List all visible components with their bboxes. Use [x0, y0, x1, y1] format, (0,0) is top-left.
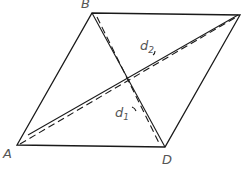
diagonal-label-d2: d2	[140, 38, 154, 55]
vertex-label-a: A	[2, 146, 12, 161]
diagonal-label-d1: d1	[115, 105, 129, 122]
d1-subscript: 1	[123, 112, 129, 122]
diagonal-d2-dashed	[20, 16, 238, 144]
d1-brace-mark	[132, 107, 136, 111]
diagonal-d1-dashed	[97, 17, 160, 145]
rhombus-diagram: A B D d2 d1	[0, 0, 243, 196]
vertex-label-b: B	[81, 0, 90, 11]
d2-subscript: 2	[148, 45, 154, 55]
vertex-label-d: D	[162, 152, 172, 167]
